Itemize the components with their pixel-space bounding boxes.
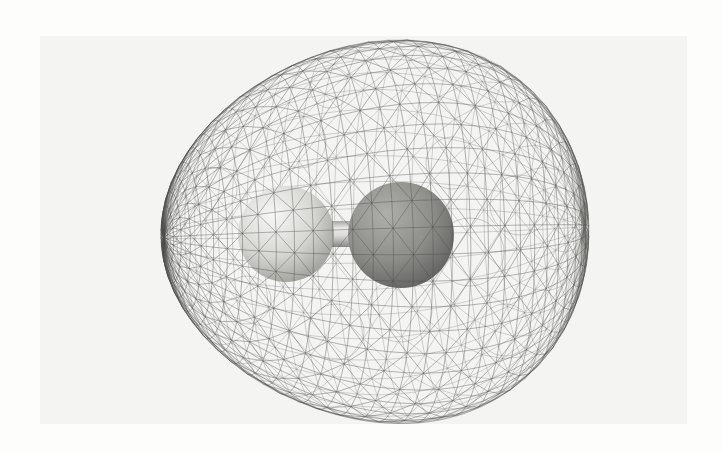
- mesh-patch-circle: [308, 304, 364, 360]
- mesh-patch-circle: [426, 137, 478, 189]
- large-dark-atom: [348, 182, 454, 288]
- page: [0, 0, 723, 452]
- molecule-figure: [0, 0, 723, 452]
